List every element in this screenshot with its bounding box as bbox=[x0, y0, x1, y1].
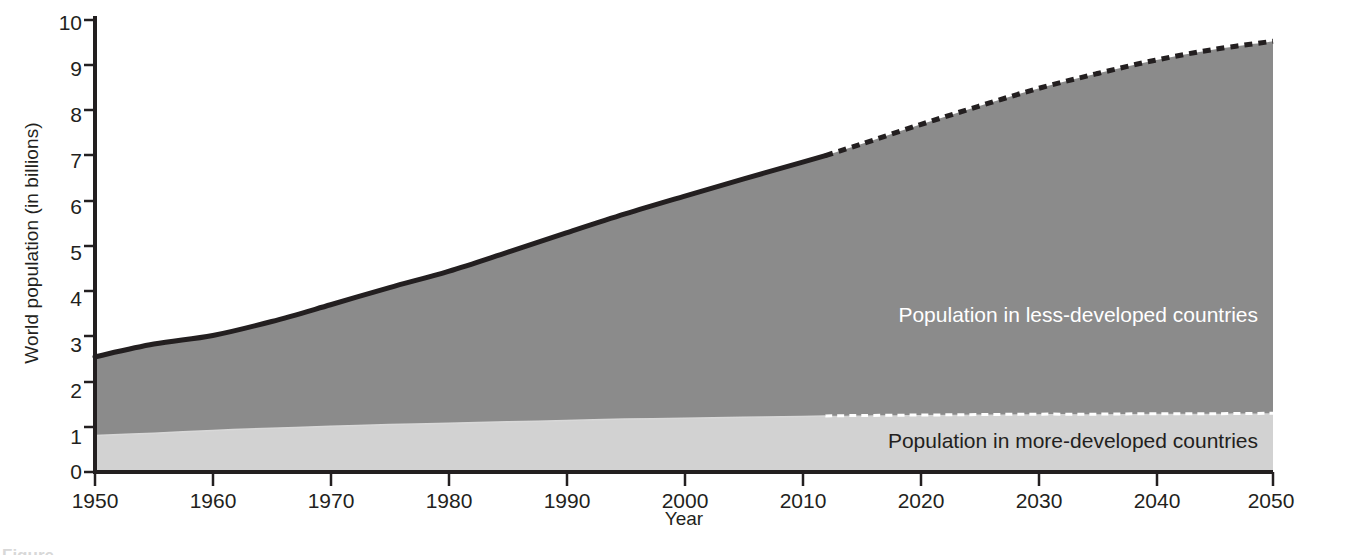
figure-root: World population (in billions) 10 9 8 7 … bbox=[0, 0, 1355, 555]
series-label-less-developed-countries: Population in less-developed countries bbox=[898, 303, 1258, 327]
series-label-more-developed-countries: Population in more-developed countries bbox=[888, 429, 1258, 453]
figure-caption-cropped: Figure bbox=[2, 546, 54, 555]
x-axis-tick-labels: 1950 1960 1970 1980 1990 2000 2010 2020 … bbox=[0, 0, 1355, 555]
x-axis-title: Year bbox=[95, 508, 1273, 530]
